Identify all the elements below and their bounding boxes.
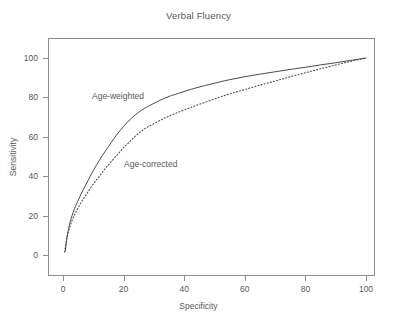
y-tick-label: 40: [29, 171, 38, 181]
curve-age-corrected: [65, 58, 366, 252]
y-tick-label: 60: [29, 132, 38, 142]
x-tick-label: 80: [301, 284, 310, 294]
y-axis-title: Sensitivity: [8, 138, 18, 176]
curve-label-age-corrected: Age-corrected: [124, 159, 177, 169]
x-tick-label: 20: [119, 284, 128, 294]
curve-age-weighted: [65, 58, 366, 251]
plot-curves: [48, 38, 375, 276]
y-tick-mark: [43, 97, 48, 98]
x-tick-label: 40: [179, 284, 188, 294]
y-tick-mark: [43, 255, 48, 256]
x-tick-label: 60: [240, 284, 249, 294]
x-axis-title: Specificity: [0, 301, 397, 311]
y-tick-label: 20: [29, 211, 38, 221]
y-tick-label: 0: [33, 250, 38, 260]
chart-figure: Verbal Fluency 020406080100 020406080100…: [0, 0, 397, 326]
y-tick-mark: [43, 137, 48, 138]
y-tick-label: 80: [29, 92, 38, 102]
x-tick-label: 0: [61, 284, 66, 294]
x-tick-mark: [305, 276, 306, 281]
y-tick-mark: [43, 176, 48, 177]
x-tick-mark: [184, 276, 185, 281]
y-tick-mark: [43, 58, 48, 59]
x-tick-mark: [124, 276, 125, 281]
x-tick-label: 100: [359, 284, 373, 294]
x-tick-mark: [63, 276, 64, 281]
x-tick-mark: [245, 276, 246, 281]
chart-title: Verbal Fluency: [0, 10, 397, 21]
x-tick-mark: [366, 276, 367, 281]
y-tick-mark: [43, 216, 48, 217]
curve-label-age-weighted: Age-weighted: [92, 91, 144, 101]
y-tick-label: 100: [24, 53, 38, 63]
